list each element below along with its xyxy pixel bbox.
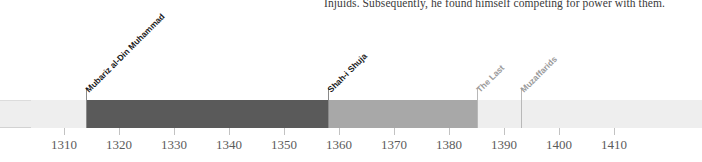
axis-tick — [559, 128, 560, 135]
axis-tick — [229, 128, 230, 135]
axis-tick-label: 1350 — [271, 137, 297, 153]
axis-tick-label: 1410 — [601, 137, 627, 153]
axis-tick — [64, 128, 65, 135]
timeline-chart: Mubariz al-Din MuhammadShah-i ShujaThe L… — [0, 18, 669, 162]
axis-tick-label: 1380 — [436, 137, 462, 153]
leader-line — [477, 88, 478, 128]
axis-tick-label: 1330 — [161, 137, 187, 153]
era-label: Muzaffarids — [518, 54, 558, 94]
axis-tick — [284, 128, 285, 135]
timeline-axis: 1310132013301340135013601370138013901400… — [0, 128, 669, 162]
prose-paragraph-line: Injuids. Subsequently, he found himself … — [0, 0, 669, 9]
axis-tick-label: 1310 — [51, 137, 77, 153]
leader-line — [521, 88, 522, 128]
era-label: Shah-i Shuja — [325, 51, 368, 94]
timeline-segment — [328, 100, 477, 128]
axis-tick — [449, 128, 450, 135]
timeline-segment — [31, 100, 86, 128]
timeline-segment — [86, 100, 328, 128]
axis-tick-label: 1340 — [216, 137, 242, 153]
axis-tick — [394, 128, 395, 135]
leader-line — [328, 88, 329, 128]
axis-tick-label: 1400 — [546, 137, 572, 153]
leader-line — [86, 88, 87, 128]
axis-tick-label: 1360 — [326, 137, 352, 153]
axis-tick-label: 1370 — [381, 137, 407, 153]
axis-tick — [174, 128, 175, 135]
timeline-segment — [477, 100, 521, 128]
axis-tick-label: 1390 — [491, 137, 517, 153]
axis-tick — [339, 128, 340, 135]
axis-tick — [614, 128, 615, 135]
timeline-segment — [521, 100, 702, 128]
era-label: The Last — [474, 63, 506, 95]
axis-tick — [504, 128, 505, 135]
era-label: Mubariz al-Din Muhammad — [83, 11, 166, 94]
axis-tick-label: 1320 — [106, 137, 132, 153]
axis-tick — [119, 128, 120, 135]
